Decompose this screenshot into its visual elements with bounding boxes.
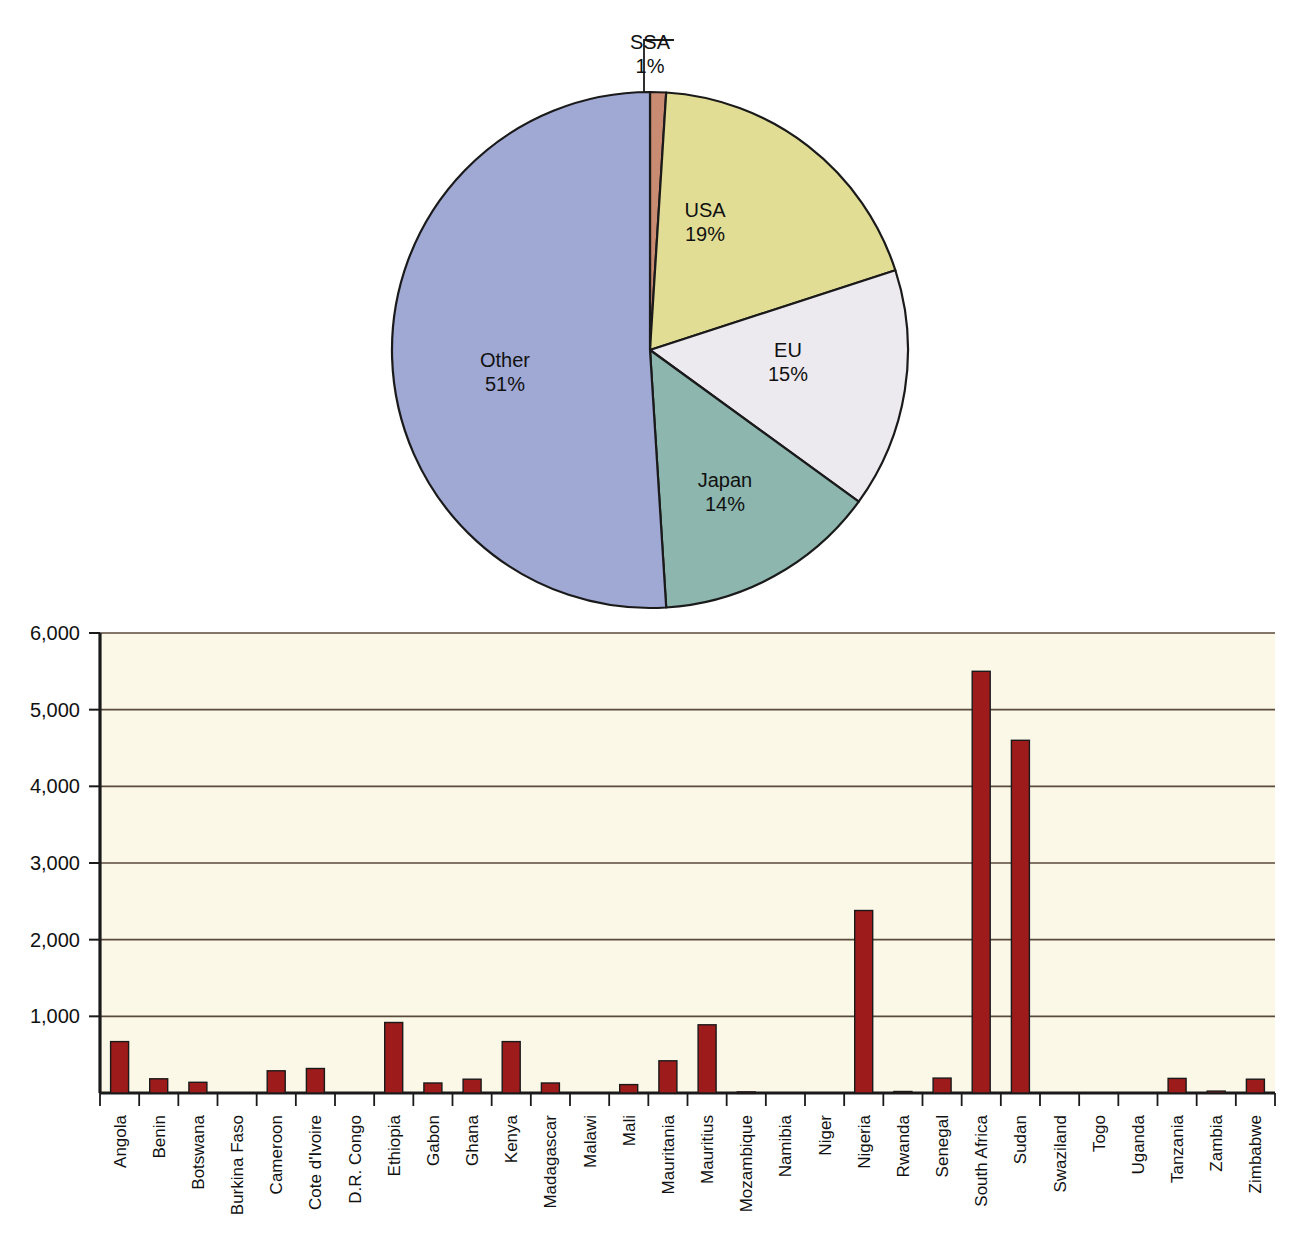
x-axis-tick-label: Niger (816, 1115, 835, 1156)
pie-label-usa: USA 19% (655, 198, 755, 247)
x-axis-tick-label: Namibia (776, 1114, 795, 1177)
x-axis-tick-label: Senegal (933, 1115, 952, 1177)
bar-gabon (424, 1083, 442, 1093)
bar-chart-graphic: 1,0002,0003,0004,0005,0006,000AngolaBeni… (0, 615, 1300, 1256)
pie-label-other: Other 51% (450, 348, 560, 397)
bar-benin (150, 1079, 168, 1093)
y-axis-tick-label: 5,000 (30, 699, 80, 721)
pie-label-eu: EU 15% (738, 338, 838, 387)
y-axis-tick-label: 3,000 (30, 852, 80, 874)
x-axis-tick-label: Malawi (581, 1115, 600, 1168)
bar-ethiopia (385, 1023, 403, 1094)
pie-label-japan-name: Japan (698, 469, 753, 491)
x-axis-tick-label: Mauritania (659, 1114, 678, 1194)
pie-label-usa-value: 19% (655, 222, 755, 246)
bar-nigeria (855, 911, 873, 1094)
x-axis-tick-label: Swaziland (1051, 1115, 1070, 1193)
x-axis-tick-label: Angola (111, 1114, 130, 1167)
x-axis-tick-label: Togo (1090, 1115, 1109, 1152)
pie-label-ssa-value: 1% (600, 54, 700, 78)
pie-label-other-value: 51% (450, 372, 560, 396)
bar-tanzania (1168, 1078, 1186, 1093)
y-axis-tick-label: 6,000 (30, 622, 80, 644)
y-axis-tick-label: 2,000 (30, 929, 80, 951)
x-axis-tick-label: South Africa (972, 1114, 991, 1206)
x-axis-tick-label: Benin (150, 1115, 169, 1158)
x-axis-tick-label: Zambia (1207, 1114, 1226, 1171)
x-axis-tick-label: Burkina Faso (228, 1115, 247, 1215)
bar-mauritius (698, 1025, 716, 1093)
x-axis-tick-label: Madagascar (541, 1115, 560, 1209)
x-axis-tick-label: D.R. Congo (346, 1115, 365, 1204)
x-axis-tick-label: Zimbabwe (1246, 1115, 1265, 1193)
pie-label-ssa-name: SSA (630, 31, 670, 53)
x-axis-tick-label: Gabon (424, 1115, 443, 1166)
bar-cameroon (267, 1071, 285, 1093)
x-axis-tick-label: Rwanda (894, 1114, 913, 1177)
bar-cote-d-ivoire (306, 1069, 324, 1094)
bar-zambia (1207, 1091, 1225, 1093)
bar-angola (111, 1042, 129, 1093)
bar-kenya (502, 1042, 520, 1093)
pie-label-eu-name: EU (774, 339, 802, 361)
bar-mali (620, 1085, 638, 1093)
x-axis-tick-label: Botswana (189, 1114, 208, 1189)
bar-senegal (933, 1078, 951, 1093)
y-axis-tick-label: 4,000 (30, 775, 80, 797)
x-axis-tick-label: Cote d'Ivoire (306, 1115, 325, 1210)
x-axis-tick-label: Ghana (463, 1114, 482, 1166)
x-axis-tick-label: Mozambique (737, 1115, 756, 1212)
bar-rwanda (894, 1092, 912, 1094)
x-axis-tick-label: Uganda (1129, 1114, 1148, 1174)
bar-chart-panel: 1,0002,0003,0004,0005,0006,000AngolaBeni… (0, 615, 1300, 1256)
x-axis-tick-label: Nigeria (855, 1114, 874, 1168)
bar-zimbabwe (1246, 1079, 1264, 1093)
pie-chart-graphic (378, 32, 922, 622)
x-axis-tick-label: Ethiopia (385, 1114, 404, 1176)
x-axis-tick-label: Cameroon (267, 1115, 286, 1194)
y-axis-tick-label: 1,000 (30, 1005, 80, 1027)
bar-madagascar (541, 1083, 559, 1093)
bar-mozambique (737, 1092, 755, 1094)
pie-label-other-name: Other (480, 349, 530, 371)
pie-label-usa-name: USA (684, 199, 725, 221)
pie-chart-panel: SSA 1% USA 19% EU 15% Japan 14% Other 51… (0, 0, 1300, 615)
pie-label-ssa: SSA 1% (600, 30, 700, 79)
pie-label-japan: Japan 14% (670, 468, 780, 517)
x-axis-tick-label: Kenya (502, 1114, 521, 1163)
bar-south-africa (972, 671, 990, 1093)
pie-label-japan-value: 14% (670, 492, 780, 516)
bar-botswana (189, 1082, 207, 1093)
x-axis-tick-label: Mauritius (698, 1115, 717, 1184)
x-axis-tick-label: Mali (620, 1115, 639, 1146)
bar-ghana (463, 1079, 481, 1093)
bar-sudan (1011, 740, 1029, 1093)
x-axis-tick-label: Sudan (1011, 1115, 1030, 1164)
x-axis-tick-label: Tanzania (1168, 1114, 1187, 1183)
pie-label-eu-value: 15% (738, 362, 838, 386)
bar-mauritania (659, 1061, 677, 1093)
